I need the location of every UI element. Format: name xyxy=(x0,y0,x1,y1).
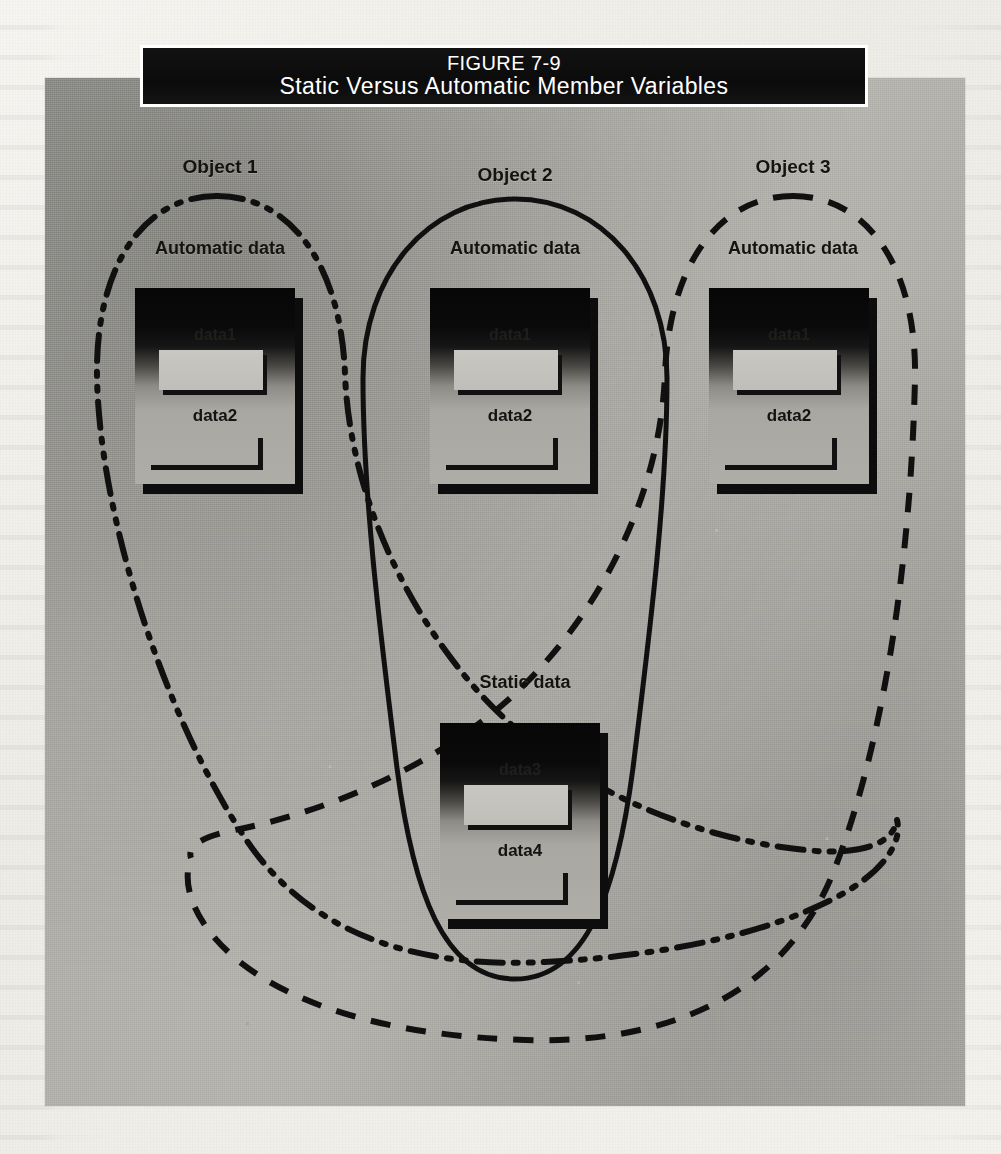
object-2-field1-label: data1 xyxy=(430,326,590,344)
block-face: data1 data2 xyxy=(709,288,869,484)
object-1-memory-block: data1 data2 xyxy=(135,288,303,494)
static-field2-slot-outline xyxy=(456,873,568,905)
object-2-label: Object 2 xyxy=(478,164,553,186)
static-field1-label: data3 xyxy=(440,761,600,779)
block-face: data1 data2 xyxy=(135,288,295,484)
figure-plate: Object 1 Automatic data data1 data2 Obje… xyxy=(45,78,965,1106)
object-2-field2-slot-outline xyxy=(446,438,558,470)
object-1-field2-label: data2 xyxy=(135,406,295,426)
object-3-field2-slot-outline xyxy=(725,438,837,470)
object-3-field1-slot xyxy=(733,350,837,390)
object-1-group-label: Automatic data xyxy=(155,238,285,259)
block-face: data3 data4 xyxy=(440,723,600,919)
object-1-label: Object 1 xyxy=(183,156,258,178)
object-2-memory-block: data1 data2 xyxy=(430,288,598,494)
object-3-field1-label: data1 xyxy=(709,326,869,344)
object-2-field1-slot xyxy=(454,350,558,390)
object-2-field2-label: data2 xyxy=(430,406,590,426)
object-2-group-label: Automatic data xyxy=(450,238,580,259)
figure-title-banner: FIGURE 7-9 Static Versus Automatic Membe… xyxy=(140,45,868,107)
static-field2-label: data4 xyxy=(440,841,600,861)
object-1-field2-slot-outline xyxy=(151,438,263,470)
figure-number: FIGURE 7-9 xyxy=(447,52,561,74)
diagram-content: Object 1 Automatic data data1 data2 Obje… xyxy=(45,78,965,1106)
static-data-label: Static data xyxy=(479,672,570,693)
static-memory-block: data3 data4 xyxy=(440,723,608,929)
object-3-group-label: Automatic data xyxy=(728,238,858,259)
object-3-field2-label: data2 xyxy=(709,406,869,426)
block-face: data1 data2 xyxy=(430,288,590,484)
object-1-field1-slot xyxy=(159,350,263,390)
figure-title: Static Versus Automatic Member Variables xyxy=(280,74,729,100)
object-3-label: Object 3 xyxy=(756,156,831,178)
object-3-memory-block: data1 data2 xyxy=(709,288,877,494)
object-1-field1-label: data1 xyxy=(135,326,295,344)
static-field1-slot xyxy=(464,785,568,825)
